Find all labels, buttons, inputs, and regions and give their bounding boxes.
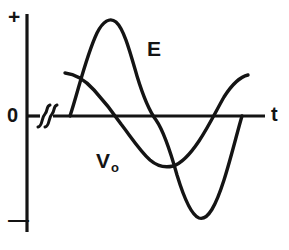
- waveform-figure: + 0 — t E Vo: [0, 0, 289, 250]
- y-axis-negative-label: —: [8, 208, 29, 229]
- x-axis-label: t: [271, 104, 278, 124]
- curve-label-e: E: [147, 38, 161, 59]
- y-axis-origin-label: 0: [7, 105, 18, 125]
- curve-label-vo: Vo: [96, 150, 118, 171]
- curve-label-vo-subscript: o: [111, 160, 119, 175]
- curve-label-vo-main: V: [96, 149, 110, 172]
- waveform-plot: [0, 0, 289, 250]
- y-axis-positive-label: +: [8, 6, 20, 27]
